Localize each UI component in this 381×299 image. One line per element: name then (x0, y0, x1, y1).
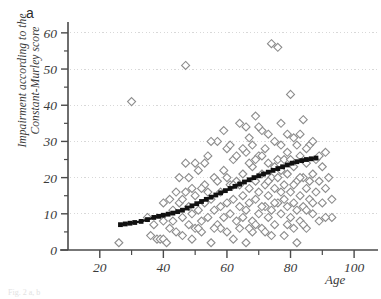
figure-panel-a: a Impairment according to the Constant-M… (0, 0, 381, 299)
svg-text:30: 30 (43, 134, 58, 149)
axis-tick-labels: 010203040506020406080100 (43, 26, 365, 275)
scatter-plot-svg: 010203040506020406080100 (0, 0, 381, 299)
svg-text:60: 60 (220, 260, 234, 275)
svg-text:60: 60 (44, 26, 58, 41)
grid-lines (70, 33, 378, 214)
svg-text:20: 20 (44, 171, 58, 186)
svg-text:10: 10 (44, 207, 58, 222)
svg-text:20: 20 (93, 260, 107, 275)
svg-text:50: 50 (44, 62, 58, 77)
svg-text:100: 100 (344, 260, 365, 275)
svg-text:0: 0 (50, 243, 57, 258)
figure-caption-fragment: Fig. 2 a, b (8, 288, 40, 297)
svg-text:80: 80 (284, 260, 298, 275)
svg-text:40: 40 (157, 260, 171, 275)
svg-text:40: 40 (44, 98, 58, 113)
data-points (115, 40, 336, 247)
